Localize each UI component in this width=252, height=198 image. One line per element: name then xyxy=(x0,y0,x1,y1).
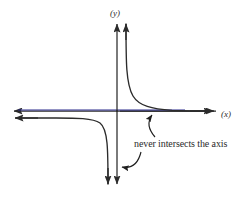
curve-group xyxy=(15,24,212,184)
hyperbola-figure: (y) (x) never intersects the axis xyxy=(0,0,252,198)
pointer-to-lower-branch xyxy=(122,152,141,167)
hyperbola-branch-lower-left xyxy=(16,118,108,184)
figure-canvas xyxy=(0,0,252,198)
hyperbola-branch-upper-right xyxy=(126,24,211,111)
x-axis-label: (x) xyxy=(221,110,231,119)
pointer-to-upper-branch xyxy=(149,115,155,137)
annotation-caption: never intersects the axis xyxy=(134,139,227,149)
axes-group xyxy=(14,24,216,184)
y-axis-label: (y) xyxy=(110,9,120,18)
